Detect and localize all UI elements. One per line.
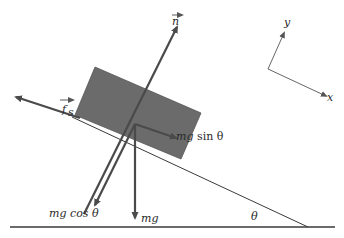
mg-cos-label: mg cos θ bbox=[49, 207, 99, 220]
theta-label: θ bbox=[251, 210, 258, 223]
y-axis-arrow bbox=[268, 33, 284, 69]
svg-text:s: s bbox=[68, 106, 74, 119]
mg-cos-arrow bbox=[95, 124, 135, 205]
x-axis-label: x bbox=[327, 91, 334, 104]
friction-label: f s bbox=[60, 100, 74, 119]
normal-label: n bbox=[172, 15, 182, 28]
mg-label: mg bbox=[141, 212, 158, 225]
svg-text:n: n bbox=[172, 15, 179, 28]
free-body-diagram: n f s mg sin θ mg cos θ mg θ y x bbox=[0, 0, 344, 238]
y-axis-label: y bbox=[283, 16, 291, 29]
mg-sin-label: mg sin θ bbox=[176, 130, 224, 143]
x-axis-arrow bbox=[268, 69, 326, 96]
block bbox=[75, 67, 201, 159]
